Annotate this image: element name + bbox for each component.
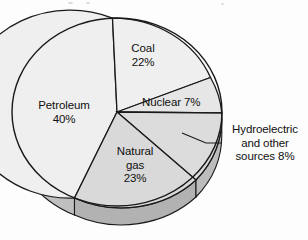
callout-line-1: Hydroelectric [222,123,308,137]
scan-artifact [86,2,90,4]
callout-line-3: sources 8% [222,150,308,164]
callout-line-2: and other [222,137,308,151]
pie-chart-graphic [0,0,308,240]
pie-slices [0,10,222,208]
scan-artifact [68,2,73,4]
pie-chart-figure: Coal 22% Petroleum 40% Nuclear 7% Natura… [0,0,308,240]
pie-callout-label-hydroelectric: Hydroelectric and other sources 8% [222,123,308,164]
scan-artifact [221,3,224,5]
